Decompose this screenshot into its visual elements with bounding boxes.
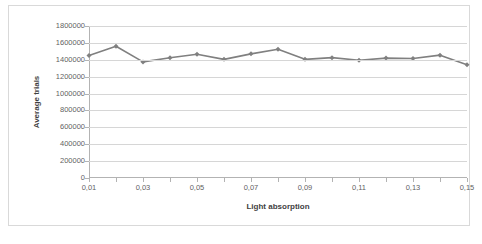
y-tick-label: 200000 bbox=[60, 157, 85, 165]
y-tick-label: 1600000 bbox=[56, 39, 85, 47]
y-tick-mark bbox=[85, 77, 89, 78]
y-tick-mark bbox=[85, 94, 89, 95]
x-tick-label: 0,07 bbox=[244, 183, 259, 192]
gridline bbox=[89, 26, 467, 27]
y-tick-label: 1000000 bbox=[56, 90, 85, 98]
data-point-marker bbox=[249, 51, 254, 56]
y-tick-mark bbox=[85, 144, 89, 145]
x-tick-label: 0,03 bbox=[136, 183, 151, 192]
y-tick-mark bbox=[85, 110, 89, 111]
y-tick-label: 1800000 bbox=[56, 22, 85, 30]
gridline bbox=[89, 161, 467, 162]
y-tick-label: 1400000 bbox=[56, 56, 85, 64]
y-tick-label: 1200000 bbox=[56, 73, 85, 81]
y-tick-mark bbox=[85, 127, 89, 128]
y-tick-mark bbox=[85, 26, 89, 27]
plot-area bbox=[89, 26, 467, 178]
chart-frame: Average trials 0200000400000600000800000… bbox=[8, 5, 470, 226]
gridline bbox=[89, 110, 467, 111]
x-axis-title: Light absorption bbox=[89, 202, 467, 211]
x-tick-label: 0,15 bbox=[460, 183, 475, 192]
x-tick-mark bbox=[467, 178, 468, 182]
data-point-marker bbox=[438, 53, 443, 58]
x-tick-label: 0,09 bbox=[298, 183, 313, 192]
x-tick-label: 0,13 bbox=[406, 183, 421, 192]
y-tick-label: 800000 bbox=[60, 106, 85, 114]
gridline bbox=[89, 144, 467, 145]
data-point-marker bbox=[276, 47, 281, 52]
gridline bbox=[89, 94, 467, 95]
y-tick-mark bbox=[85, 60, 89, 61]
x-tick-label: 0,05 bbox=[190, 183, 205, 192]
y-tick-mark bbox=[85, 161, 89, 162]
data-point-marker bbox=[87, 53, 92, 58]
data-point-marker bbox=[195, 52, 200, 57]
y-tick-label: 600000 bbox=[60, 123, 85, 131]
x-tick-label: 0,01 bbox=[82, 183, 97, 192]
gridline bbox=[89, 43, 467, 44]
x-axis-tick-labels: 0,010,030,050,070,090,110,130,15 bbox=[89, 182, 467, 196]
series-line-average-trials bbox=[89, 26, 467, 178]
gridline bbox=[89, 77, 467, 78]
x-tick-label: 0,11 bbox=[352, 183, 366, 192]
gridline bbox=[89, 127, 467, 128]
y-tick-mark bbox=[85, 43, 89, 44]
y-axis-tick-labels: 0200000400000600000800000100000012000001… bbox=[9, 26, 85, 178]
gridline bbox=[89, 60, 467, 61]
y-tick-label: 400000 bbox=[60, 140, 85, 148]
data-point-marker bbox=[465, 62, 470, 67]
